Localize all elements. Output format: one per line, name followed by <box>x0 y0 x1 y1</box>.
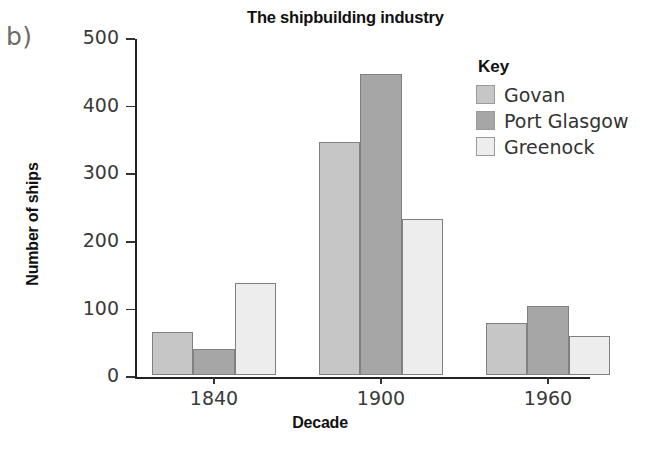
bar-govan-1900 <box>319 142 360 375</box>
legend-label: Govan <box>504 84 565 106</box>
y-tick-label: 300 <box>83 161 119 183</box>
x-tick <box>380 377 382 384</box>
x-tick-label: 1900 <box>341 387 421 409</box>
chart-title: The shipbuilding industry <box>247 8 444 27</box>
bar-greenock-1960 <box>569 336 610 375</box>
bar-port-glasgow-1960 <box>527 306 568 375</box>
y-tick-label: 100 <box>83 297 119 319</box>
x-tick <box>547 377 549 384</box>
x-axis-title-text: Decade <box>292 414 348 431</box>
bar-govan-1960 <box>486 323 527 375</box>
legend-swatch <box>476 111 495 130</box>
x-tick <box>213 377 215 384</box>
y-tick: 100 <box>126 309 135 311</box>
legend-swatch <box>476 137 495 156</box>
y-tick: 500 <box>126 38 135 40</box>
bar-port-glasgow-1840 <box>193 349 234 375</box>
legend-item: Greenock <box>476 134 656 159</box>
x-tick-label: 1840 <box>174 387 254 409</box>
x-tick-label: 1960 <box>508 387 588 409</box>
y-axis-line <box>135 39 137 378</box>
y-tick-label: 0 <box>107 364 119 386</box>
legend-label: Port Glasgow <box>504 110 628 132</box>
y-tick: 300 <box>126 173 135 175</box>
legend-rows: GovanPort GlasgowGreenock <box>476 82 656 159</box>
x-axis-line <box>135 377 590 379</box>
bar-greenock-1840 <box>235 283 276 375</box>
legend-label: Greenock <box>504 136 595 158</box>
y-tick-label: 500 <box>83 26 119 48</box>
y-tick: 400 <box>126 106 135 108</box>
y-tick-label: 400 <box>83 94 119 116</box>
y-axis-title: Number of ships <box>24 144 42 304</box>
legend: Key GovanPort GlasgowGreenock <box>476 57 656 160</box>
x-axis-title: Decade <box>0 414 660 432</box>
y-tick: 0 <box>126 376 135 378</box>
legend-item: Port Glasgow <box>476 108 656 133</box>
panel-label: b) <box>6 22 33 51</box>
bar-greenock-1900 <box>402 219 443 375</box>
bar-port-glasgow-1900 <box>360 74 401 375</box>
legend-title: Key <box>478 57 656 77</box>
y-tick: 200 <box>126 241 135 243</box>
legend-swatch <box>476 85 495 104</box>
y-tick-label: 200 <box>83 229 119 251</box>
bar-govan-1840 <box>152 332 193 375</box>
bar-chart-figure: b) The shipbuilding industry Number of s… <box>0 0 660 462</box>
legend-item: Govan <box>476 82 656 107</box>
